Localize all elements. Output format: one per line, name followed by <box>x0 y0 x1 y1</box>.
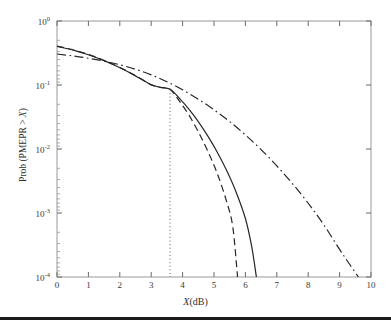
x-tick-label-3: 3 <box>139 280 163 290</box>
data-curves <box>57 46 358 277</box>
x-tick-label-5: 5 <box>202 280 226 290</box>
y-tick-marks <box>57 21 371 277</box>
x-tick-label-10: 10 <box>359 280 383 290</box>
x-axis-label-unit: (dB) <box>189 296 207 307</box>
figure-container: 100 10-1 10-2 10-3 10-4 0 1 2 3 4 5 6 7 … <box>0 0 391 324</box>
y-axis-label-variable: X <box>18 111 28 117</box>
x-tick-label-1: 1 <box>76 280 100 290</box>
x-tick-label-2: 2 <box>108 280 132 290</box>
series-solid-curve <box>57 46 256 277</box>
series-dash-dot-curve <box>57 54 358 277</box>
x-tick-label-6: 6 <box>233 280 257 290</box>
y-axis-label-suffix: ) <box>18 108 28 111</box>
x-axis-label: X(dB) <box>0 296 391 307</box>
x-tick-label-9: 9 <box>328 280 352 290</box>
y-axis-label-prefix: Prob (PMEPR > <box>18 117 28 182</box>
plot-frame <box>57 21 371 277</box>
x-tick-label-7: 7 <box>265 280 289 290</box>
series-dashed-curve <box>57 46 238 277</box>
chart-canvas <box>0 0 391 324</box>
x-tick-label-0: 0 <box>45 280 69 290</box>
x-tick-marks <box>57 21 371 277</box>
y-axis-label: Prob (PMEPR > X) <box>18 70 28 220</box>
y-tick-label-1e0: 100 <box>24 15 50 27</box>
x-tick-label-4: 4 <box>171 280 195 290</box>
x-tick-label-8: 8 <box>296 280 320 290</box>
page-bottom-rule <box>0 317 391 320</box>
